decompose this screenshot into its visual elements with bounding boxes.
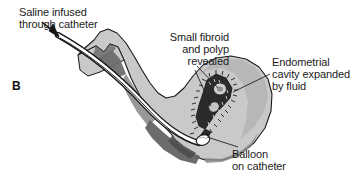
- label-balloon-on-catheter: Balloon on catheter: [232, 148, 286, 172]
- figure-panel-b: B Saline infused through catheter Small …: [0, 0, 363, 188]
- panel-letter-b: B: [12, 79, 21, 93]
- label-saline-infused: Saline infused through catheter: [19, 6, 98, 30]
- label-small-fibroid-polyp: Small fibroid and polyp revealed: [133, 31, 229, 68]
- label-endometrial-cavity: Endometrial cavity expanded by fluid: [272, 56, 350, 93]
